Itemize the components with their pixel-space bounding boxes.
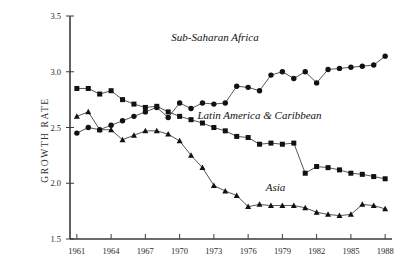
y-tick-label: 3.5 bbox=[50, 11, 61, 21]
data-point-square bbox=[234, 134, 239, 139]
data-point-square bbox=[314, 164, 319, 169]
data-point-square bbox=[200, 121, 205, 126]
x-tick-label: 1967 bbox=[137, 246, 154, 256]
data-point-triangle bbox=[222, 188, 228, 194]
series-sub-saharan-africa bbox=[74, 53, 388, 135]
data-point-square bbox=[383, 176, 388, 181]
data-point-circle bbox=[165, 115, 170, 120]
data-point-triangle bbox=[131, 132, 137, 138]
data-point-square bbox=[246, 135, 251, 140]
x-tick-label: 1973 bbox=[205, 246, 222, 256]
series-asia bbox=[74, 109, 388, 218]
data-point-circle bbox=[200, 100, 205, 105]
data-point-square bbox=[223, 128, 228, 133]
x-tick-label: 1982 bbox=[308, 246, 325, 256]
data-point-circle bbox=[86, 125, 91, 130]
x-tick-label: 1970 bbox=[171, 246, 188, 256]
data-point-square bbox=[154, 104, 159, 109]
series-line bbox=[77, 112, 385, 216]
data-point-circle bbox=[360, 63, 365, 68]
data-point-circle bbox=[280, 69, 285, 74]
data-point-triangle bbox=[234, 192, 240, 198]
y-tick-label: 1.5 bbox=[50, 234, 61, 244]
data-point-circle bbox=[257, 88, 262, 93]
data-point-triangle bbox=[177, 138, 183, 144]
data-point-circle bbox=[143, 109, 148, 114]
data-point-square bbox=[131, 102, 136, 107]
series-latin-america-caribbean bbox=[74, 86, 387, 181]
data-point-square bbox=[371, 174, 376, 179]
x-tick-label: 1976 bbox=[240, 246, 257, 256]
x-tick-label: 1985 bbox=[342, 246, 359, 256]
y-tick-label: 3.0 bbox=[50, 67, 61, 77]
data-point-triangle bbox=[359, 201, 365, 207]
data-point-triangle bbox=[85, 109, 91, 115]
data-point-square bbox=[120, 97, 125, 102]
data-point-square bbox=[166, 109, 171, 114]
series-label-sub-saharan-africa: Sub-Saharan Africa bbox=[171, 31, 259, 43]
data-point-square bbox=[211, 125, 216, 130]
data-point-triangle bbox=[257, 201, 263, 207]
data-point-circle bbox=[245, 85, 250, 90]
chart-canvas: 1.52.02.53.03.51961196419671970197319761… bbox=[0, 0, 402, 280]
data-point-circle bbox=[314, 80, 319, 85]
data-point-circle bbox=[325, 67, 330, 72]
data-point-circle bbox=[211, 101, 216, 106]
x-tick-label: 1979 bbox=[274, 246, 291, 256]
series-label-latin-america-caribbean: Latin America & Caribbean bbox=[196, 109, 322, 121]
data-point-circle bbox=[268, 72, 273, 77]
data-point-triangle bbox=[314, 209, 320, 215]
data-point-square bbox=[303, 171, 308, 176]
x-tick-label: 1964 bbox=[103, 246, 121, 256]
data-point-circle bbox=[303, 69, 308, 74]
y-tick-label: 2.5 bbox=[50, 123, 61, 133]
data-point-square bbox=[291, 141, 296, 146]
data-point-circle bbox=[188, 106, 193, 111]
data-point-triangle bbox=[211, 182, 217, 188]
data-point-circle bbox=[177, 100, 182, 105]
data-point-circle bbox=[234, 84, 239, 89]
data-point-circle bbox=[371, 62, 376, 67]
data-point-circle bbox=[291, 76, 296, 81]
y-tick-label: 2.0 bbox=[50, 178, 61, 188]
data-point-circle bbox=[120, 118, 125, 123]
data-point-square bbox=[97, 92, 102, 97]
series-label-asia: Asia bbox=[265, 181, 286, 193]
data-point-square bbox=[74, 86, 79, 91]
data-point-square bbox=[348, 171, 353, 176]
data-point-circle bbox=[337, 66, 342, 71]
data-point-circle bbox=[74, 130, 79, 135]
growth-rate-line-chart: GROWTH RATE 1.52.02.53.03.51961196419671… bbox=[0, 0, 402, 280]
data-point-square bbox=[177, 114, 182, 119]
data-point-circle bbox=[382, 53, 387, 58]
data-point-square bbox=[280, 142, 285, 147]
data-point-square bbox=[189, 117, 194, 122]
data-point-square bbox=[109, 88, 114, 93]
data-point-circle bbox=[131, 114, 136, 119]
data-point-square bbox=[86, 86, 91, 91]
data-point-square bbox=[337, 167, 342, 172]
data-point-square bbox=[143, 105, 148, 110]
data-point-triangle bbox=[74, 113, 80, 119]
data-point-square bbox=[326, 165, 331, 170]
data-point-circle bbox=[223, 100, 228, 105]
data-point-square bbox=[268, 141, 273, 146]
data-point-square bbox=[360, 172, 365, 177]
data-point-square bbox=[257, 142, 262, 147]
x-tick-label: 1988 bbox=[377, 246, 394, 256]
data-point-circle bbox=[348, 65, 353, 70]
x-tick-label: 1961 bbox=[68, 246, 85, 256]
